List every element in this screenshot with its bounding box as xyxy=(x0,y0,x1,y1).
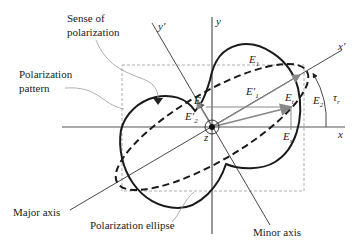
label-et: Et xyxy=(284,91,295,106)
label-e1-prime: E′1 xyxy=(245,85,259,100)
label-x-axis: x xyxy=(337,128,343,140)
label-minor-axis: Minor axis xyxy=(253,226,301,238)
label-x-prime-axis: x′ xyxy=(337,40,346,52)
label-sense-of-polarization-1: Sense of xyxy=(67,12,105,24)
label-polarization-ellipse: Polarization ellipse xyxy=(90,219,175,231)
label-major-axis: Major axis xyxy=(13,206,60,218)
label-e2-prime: E′2 xyxy=(184,110,198,125)
polarization-diagram: Sense of polarization Polarization patte… xyxy=(0,0,363,250)
sense-leader xyxy=(96,40,158,100)
label-polarization-pattern-1: Polarization xyxy=(19,68,73,80)
label-z-axis: z xyxy=(203,131,209,143)
label-ex: Ex xyxy=(282,130,294,145)
label-e1: E1 xyxy=(248,53,259,68)
label-e2: E2 xyxy=(312,94,324,109)
vector-et xyxy=(212,107,291,127)
sense-arrow xyxy=(153,98,163,105)
label-y-axis: y xyxy=(215,15,221,27)
label-y-prime-axis: y′ xyxy=(157,20,166,32)
label-sense-of-polarization-2: polarization xyxy=(67,26,120,38)
label-polarization-pattern-2: pattern xyxy=(19,82,50,94)
pattern-leader xyxy=(65,88,124,109)
label-tau-r: τr xyxy=(333,91,340,106)
